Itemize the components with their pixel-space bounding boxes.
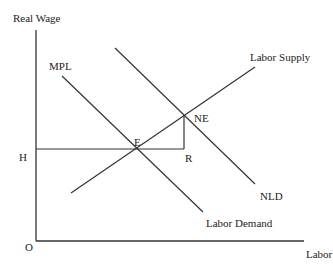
- r-point-label: R: [185, 152, 193, 164]
- labor-market-diagram: Real Wage Labor O H MPL Labor Demand NLD…: [0, 0, 333, 274]
- origin-label: O: [25, 241, 33, 253]
- y-axis-label: Real Wage: [13, 12, 61, 24]
- labor-demand-label: Labor Demand: [206, 217, 273, 229]
- wage-level-label: H: [19, 151, 27, 163]
- labor-supply-label: Labor Supply: [250, 51, 311, 63]
- x-axis-label: Labor: [306, 248, 333, 260]
- equilibrium-label: E: [134, 136, 141, 148]
- new-equilibrium-label: NE: [194, 112, 209, 124]
- labor-demand-curve: [62, 76, 203, 212]
- mpl-label: MPL: [49, 60, 72, 72]
- nld-label: NLD: [260, 190, 283, 202]
